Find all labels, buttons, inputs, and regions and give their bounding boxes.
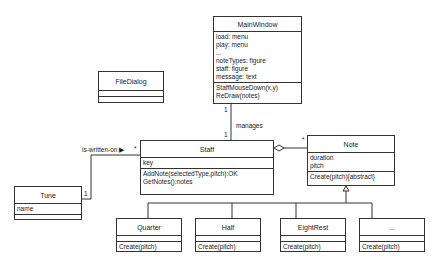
class-note[interactable]: Note duration pitch Create(pitch){abstra… [307,135,395,186]
class-name: ... [360,219,424,236]
multiplicity-label: 1 [224,131,228,138]
operations-section: Create(pitch){abstract} [308,172,394,182]
class-more[interactable]: ... Create(pitch) [359,218,425,252]
class-name: Half [196,219,260,236]
operation: ReDraw(notes) [216,92,299,100]
attribute: ... [216,49,299,57]
multiplicity-label: * [134,145,137,152]
association-label: manages [236,122,263,129]
attributes-section: duration pitch [308,153,394,172]
aggregation-diamond [274,145,284,151]
operation: Create(pitch){abstract} [310,173,392,181]
attribute: name [17,205,79,213]
operations-section: Create(pitch) [281,242,345,252]
class-name: Tune [15,187,81,204]
attribute: noteTypes: figure [216,57,299,65]
operations-section: Create(pitch) [360,242,424,252]
class-quarter[interactable]: Quarter Create(pitch) [116,218,182,252]
class-tune[interactable]: Tune name [14,186,82,220]
operation: AddNote(selectedType,pitch):OK [143,170,271,178]
operation: Create(pitch) [283,243,343,251]
class-file-dialog[interactable]: FileDialog [98,71,164,103]
operations-section: Create(pitch) [117,242,181,252]
attribute: key [143,159,271,167]
operation: Create(pitch) [362,243,422,251]
operations-section [99,97,163,102]
attribute: duration [310,154,392,162]
operation: Create(pitch) [198,243,258,251]
attributes-section: key [141,158,273,169]
operations-section: AddNote(selectedType,pitch):OK GetNotes(… [141,169,273,187]
attributes-section: name [15,204,81,215]
attribute: message: text [216,73,299,81]
multiplicity-label: 1 [224,106,228,113]
class-staff[interactable]: Staff key AddNote(selectedType,pitch):OK… [140,140,274,195]
class-name: MainWindow [214,17,301,32]
operations-section [15,215,81,220]
class-half[interactable]: Half Create(pitch) [195,218,261,252]
operations-section: Create(pitch) [196,242,260,252]
generalization-arrow [343,186,349,191]
operation: StaffMouseDown(x,y) [216,84,299,92]
multiplicity-label: * [302,136,305,143]
class-name: Staff [141,141,273,158]
class-eight-rest[interactable]: EightRest Create(pitch) [280,218,346,252]
operation: Create(pitch) [119,243,179,251]
attribute: pitch [310,162,392,170]
attributes-section: load: menu play: menu ... noteTypes: fig… [214,32,301,83]
class-name: Note [308,136,394,153]
class-name: EightRest [281,219,345,236]
multiplicity-label: 1 [84,190,88,197]
class-main-window[interactable]: MainWindow load: menu play: menu ... not… [213,16,302,104]
association-label: is-written-on ▶ [82,146,124,154]
attribute: load: menu [216,33,299,41]
is-written-on-association-line [82,155,140,199]
attribute: play: menu [216,41,299,49]
operations-section: StaffMouseDown(x,y) ReDraw(notes) [214,83,301,101]
class-name: FileDialog [99,72,163,91]
operation: GetNotes():notes [143,178,271,186]
class-name: Quarter [117,219,181,236]
attribute: staff: figure [216,65,299,73]
